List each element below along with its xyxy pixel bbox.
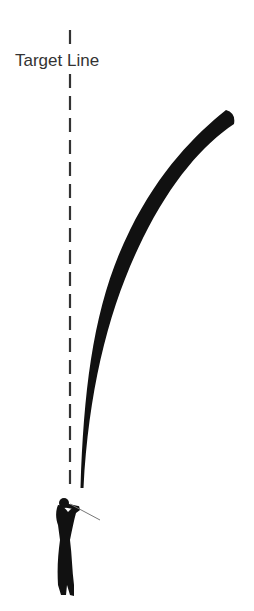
golf-shot-diagram: [0, 0, 254, 611]
golfer-icon: [56, 498, 80, 596]
ball-flight-path: [81, 110, 235, 488]
target-line-label: Target Line: [14, 50, 100, 72]
